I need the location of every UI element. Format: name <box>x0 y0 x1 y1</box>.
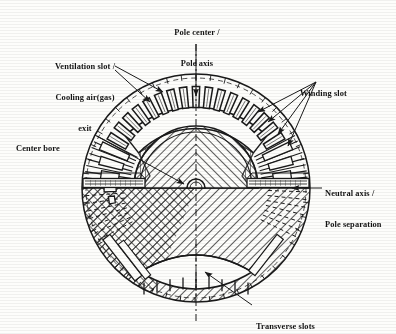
label-transverse-slots-line1: Transverse slots <box>256 322 356 332</box>
label-neutral-axis-line2: Pole separation <box>325 220 396 230</box>
label-neutral-axis: Neutral axis / Pole separation <box>325 168 396 251</box>
figure-canvas: Pole center / Pole axis Ventilation slot… <box>0 0 396 334</box>
label-transverse-slots: Transverse slots <box>256 301 356 334</box>
label-ventilation-line2: Cooling air(gas) <box>33 93 137 103</box>
label-winding-slot-line1: Winding slot <box>300 89 392 99</box>
label-center-bore-line1: Center bore <box>16 144 100 154</box>
label-pole-center-line1: Pole center / <box>155 28 239 38</box>
label-pole-center-line2: Pole axis <box>155 59 239 69</box>
label-ventilation-line1: Ventilation slot / <box>33 62 137 72</box>
label-neutral-axis-line1: Neutral axis / <box>325 189 396 199</box>
label-pole-center: Pole center / Pole axis <box>155 7 239 90</box>
label-winding-slot: Winding slot <box>300 68 392 120</box>
label-center-bore: Center bore <box>16 123 100 175</box>
